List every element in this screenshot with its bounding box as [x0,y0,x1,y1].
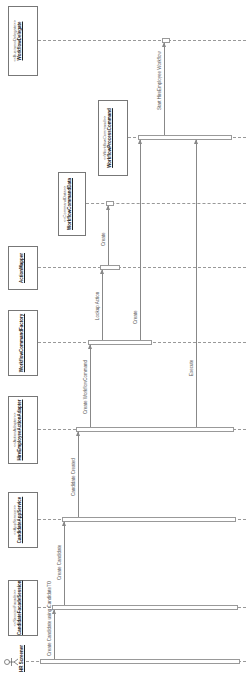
arrow-head-icon [88,344,92,349]
participant-candidate-app-service: <<AppService>> CandidateAppService [8,492,38,548]
message-label: Create Candidate [57,545,62,580]
participant-candidate-facade-session: <<SessionFacade>> CandidateFacadeSession [8,580,38,636]
actor-hr-screener: HR Screener [4,652,26,672]
participant-name: ActionMapper [19,247,25,289]
message-candidate-created [78,432,79,517]
participant-workflow-command-factory: WorkflowCommandFactory [8,310,38,376]
participant-name: WorkflowCommandFactory [19,311,25,375]
activation-workflow-process-command [138,135,232,140]
participant-workflow-process-command: <<WorkflowCommand>> WorkflowProcessComma… [98,100,128,176]
arrow-head-icon [52,609,56,614]
message-label: Candidate Created [71,458,76,496]
participant-hire-employee-action-adapter: <<ActionAdapter>> HireEmployeeActionAdap… [8,396,38,464]
message-label: Lookup Action [95,292,100,320]
activation-candidate-app-service [62,517,236,522]
participant-name: CandidateFacadeSession [17,581,23,635]
activation-candidate-facade-session [52,605,238,610]
participant-name: WorkflowCommandData [67,173,73,235]
message-create-process-command [140,140,141,340]
participant-workflow-delegate: <<BusinessDelegate>> WorkflowDelegate [8,6,38,76]
activation-workflow-command-factory [88,340,152,345]
participant-name: HireEmployeeActionAdapter [17,397,23,463]
lifeline-workflow-delegate [38,40,246,41]
message-label: Create Candidate using CandidateTO [47,581,52,656]
arrow-head-icon [106,205,110,210]
lifeline-action-mapper [38,267,246,268]
arrow-head-icon [194,139,198,144]
arrow-head-icon [100,269,104,274]
participant-action-mapper: ActionMapper [8,246,38,290]
message-label: Create [133,310,138,324]
arrow-head-icon [62,521,66,526]
arrow-head-icon [76,431,80,436]
message-label: Execute [189,360,194,376]
participant-name: WorkflowDelegate [17,7,23,75]
message-create-command-data [108,206,109,265]
activation-hire-employee-action-adapter [76,427,234,432]
arrow-head-icon [138,139,142,144]
message-start-hire-employee-workflow [164,43,165,135]
stick-figure-icon [4,652,20,672]
participant-name: CandidateAppService [17,493,23,547]
message-create-candidate-to [54,610,55,659]
sequence-diagram: HR Screener <<SessionFacade>> CandidateF… [0,0,249,676]
message-label: Create WorkflowCommand [83,360,88,414]
message-lookup-action [102,270,103,340]
message-label: Create [101,232,106,246]
message-execute [196,140,197,427]
participant-workflow-command-data: <<CommandData>> WorkflowCommandData [58,172,86,236]
arrow-head-icon [162,42,166,47]
message-create-candidate [64,522,65,605]
message-create-workflow-command [90,345,91,427]
activation-actor [40,659,240,664]
participant-name: WorkflowProcessCommand [107,101,113,175]
actor-name: HR Screener [19,645,24,672]
message-label: Start HireEmployee Workflow [157,51,162,110]
